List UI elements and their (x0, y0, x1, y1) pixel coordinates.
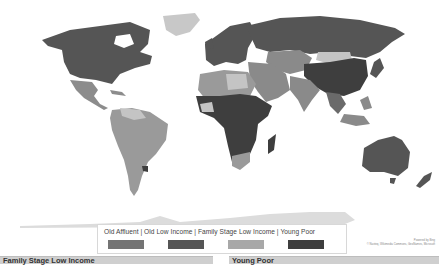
map-legend: Old Affluent | Old Low Income | Family S… (97, 224, 347, 254)
panel-title: Young Poor (232, 256, 274, 265)
region-mexico[interactable] (70, 80, 108, 110)
world-map[interactable] (0, 0, 439, 250)
region-australia[interactable] (362, 136, 410, 176)
legend-swatch-young-poor (288, 240, 324, 249)
region-south-america[interactable] (110, 108, 168, 196)
map-attribution: Powered by Bing © Navteq, Wikimedia Comm… (367, 238, 435, 246)
panel-title: Family Stage Low Income (3, 256, 95, 265)
attribution-sources: © Navteq, Wikimedia Commons, GeoNames, M… (367, 242, 435, 246)
region-russia[interactable] (246, 16, 405, 58)
region-greenland[interactable] (163, 13, 200, 36)
legend-swatch-family-stage-low-income (228, 240, 264, 249)
legend-swatch-old-affluent (108, 240, 144, 249)
legend-swatch-old-low-income (168, 240, 204, 249)
region-north-america[interactable] (42, 22, 152, 84)
panel-young-poor[interactable]: Young Poor (229, 256, 439, 264)
legend-labels: Old Affluent | Old Low Income | Family S… (104, 228, 315, 235)
panel-family-stage-low-income[interactable]: Family Stage Low Income (0, 256, 213, 264)
